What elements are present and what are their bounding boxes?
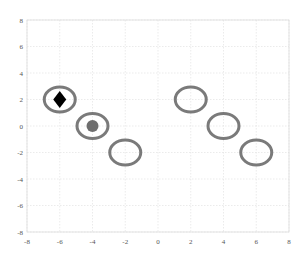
y-tick-label: 2 xyxy=(20,96,24,104)
x-tick-label: 0 xyxy=(156,238,160,246)
y-tick-label: 6 xyxy=(20,43,24,51)
y-tick-label: 0 xyxy=(20,123,24,131)
y-tick-label: 8 xyxy=(20,17,24,25)
y-tick-label: -2 xyxy=(17,149,23,157)
x-tick-label: 4 xyxy=(222,238,226,246)
circle-marker xyxy=(87,120,99,132)
x-tick-label: 2 xyxy=(189,238,193,246)
scatter-chart: -8-6-4-202468 86420-2-4-6-8 xyxy=(0,0,308,257)
grid-lines xyxy=(27,20,289,232)
x-tick-label: -2 xyxy=(122,238,128,246)
x-tick-label: 6 xyxy=(255,238,259,246)
y-tick-label: -8 xyxy=(17,229,23,237)
y-tick-label: -6 xyxy=(17,202,23,210)
x-tick-label: -8 xyxy=(24,238,30,246)
y-axis-ticks: 86420-2-4-6-8 xyxy=(17,17,23,237)
diamond-marker xyxy=(53,91,66,108)
y-tick-label: 4 xyxy=(20,70,24,78)
y-tick-label: -4 xyxy=(17,176,23,184)
x-tick-label: 8 xyxy=(287,238,291,246)
x-tick-label: -6 xyxy=(57,238,63,246)
x-tick-label: -4 xyxy=(90,238,96,246)
x-axis-ticks: -8-6-4-202468 xyxy=(24,238,291,246)
